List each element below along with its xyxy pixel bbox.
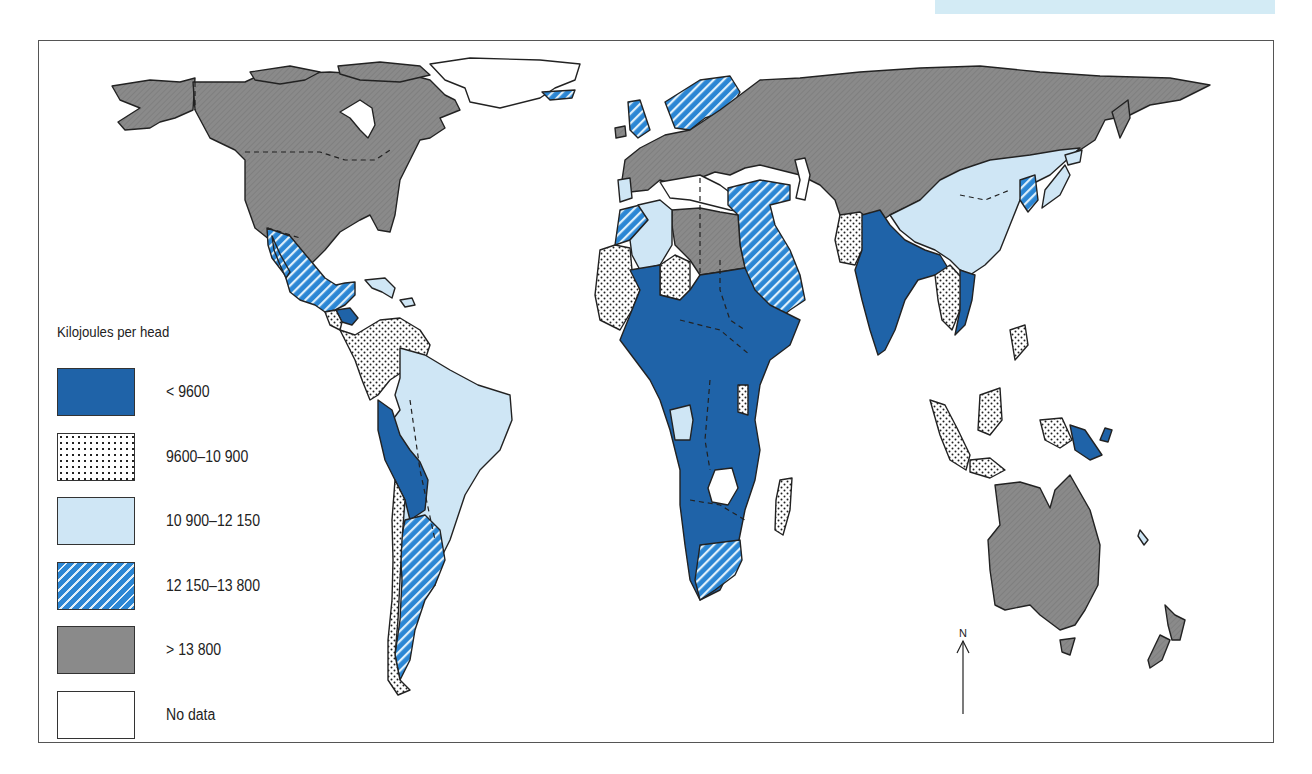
north-arrow-icon (955, 639, 971, 714)
legend-item-over-13800: > 13 800 (57, 618, 273, 683)
region-angola-light (670, 405, 693, 440)
region-tasmania (1060, 638, 1075, 655)
region-borneo (978, 388, 1002, 435)
region-korea (1020, 175, 1038, 212)
region-cuba (365, 278, 395, 298)
legend-label: 12 150–13 800 (166, 577, 260, 595)
swatch-white (57, 691, 135, 739)
legend-label: No data (166, 706, 215, 724)
region-canada-usa (193, 72, 460, 280)
region-pacific-islands (1138, 530, 1148, 545)
legend-item-under-9600: < 9600 (57, 360, 273, 425)
region-iceland (542, 90, 575, 100)
region-iberia (618, 178, 632, 202)
region-png-islands (1100, 428, 1112, 442)
legend-item-no-data: No data (57, 683, 273, 748)
legend-item-9600-10900: 9600–10 900 (57, 425, 273, 490)
region-australia (988, 475, 1100, 630)
region-sumatra (930, 400, 970, 470)
legend-label: 10 900–12 150 (166, 512, 260, 530)
north-arrow: N (955, 628, 971, 718)
swatch-grey (57, 626, 135, 674)
legend: Kilojoules per head < 9600 9600–10 900 1… (57, 323, 273, 747)
north-label: N (955, 628, 971, 639)
region-java (970, 458, 1005, 478)
region-papua-dots (1040, 418, 1072, 448)
region-uk (628, 100, 650, 138)
legend-item-12150-13800: 12 150–13 800 (57, 554, 273, 619)
swatch-dotted (57, 433, 135, 481)
region-alaska (112, 78, 195, 130)
swatch-striped-blue (57, 562, 135, 610)
legend-label: > 13 800 (166, 641, 221, 659)
region-ireland (615, 126, 626, 138)
legend-label: 9600–10 900 (166, 448, 248, 466)
region-hispaniola (400, 298, 415, 307)
legend-item-10900-12150: 10 900–12 150 (57, 489, 273, 554)
region-philippines (1010, 325, 1028, 360)
legend-title: Kilojoules per head (57, 323, 247, 340)
legend-label: < 9600 (166, 383, 209, 401)
swatch-light-blue (57, 497, 135, 545)
swatch-dark-blue (57, 368, 135, 416)
region-papua-new-guinea (1070, 425, 1102, 460)
region-new-zealand-south (1148, 635, 1170, 668)
region-east-africa-dots (738, 385, 748, 415)
region-sahel-dots (660, 255, 690, 300)
region-new-zealand-north (1165, 605, 1185, 640)
region-madagascar (775, 478, 792, 535)
